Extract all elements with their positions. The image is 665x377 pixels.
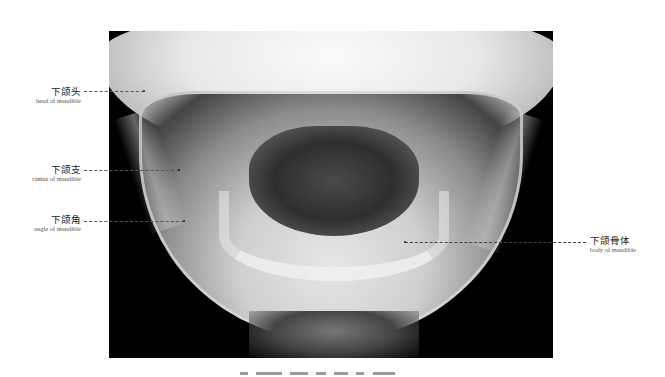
label-zh: 下颌角 [10, 215, 81, 225]
label-body-of-mandible: 下颌骨体 body of mandible [590, 236, 665, 253]
label-angle-of-mandible: 下颌角 angle of mandible [10, 215, 81, 232]
label-zh: 下颌骨体 [590, 236, 665, 246]
pointer-dot-angle [183, 220, 185, 222]
leader-line-angle [84, 221, 184, 222]
label-en: body of mandible [590, 247, 665, 254]
label-ramus-of-mandible: 下颌支 ramus of mandible [10, 165, 81, 182]
leader-line-head [84, 91, 144, 92]
label-head-of-mandible: 下颌头 head of mandible [20, 87, 81, 104]
label-zh: 下颌支 [10, 165, 81, 175]
leader-line-ramus [84, 170, 179, 171]
leader-line-body [405, 242, 586, 243]
dental-arch-shadow [219, 191, 449, 281]
label-en: ramus of mandible [10, 176, 81, 183]
mandible-radiograph [109, 31, 553, 358]
figure-caption-clipped [240, 372, 420, 377]
label-en: head of mandible [20, 98, 81, 105]
pointer-dot-body [404, 241, 406, 243]
pointer-dot-head [143, 90, 145, 92]
pointer-dot-ramus [178, 169, 180, 171]
label-en: angle of mandible [10, 226, 81, 233]
label-zh: 下颌头 [20, 87, 81, 97]
cervical-spine-shadow [249, 311, 419, 358]
